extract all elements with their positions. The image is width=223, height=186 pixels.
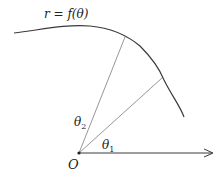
theta2-label: θ2 (74, 115, 86, 131)
curve-label: r = f(θ) (44, 7, 89, 21)
origin-point (77, 151, 80, 154)
theta1-label: θ1 (102, 138, 114, 154)
origin-label: O (68, 157, 79, 172)
ray-theta2 (79, 37, 125, 153)
polar-area-diagram: r = f(θ) O θ2 θ1 (0, 0, 223, 186)
ray-theta1 (79, 78, 162, 153)
